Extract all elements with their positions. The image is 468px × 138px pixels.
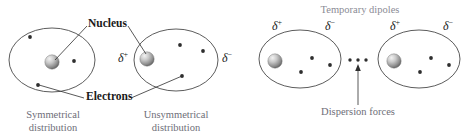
caption-line-1: Symmetrical: [12, 108, 94, 121]
delta-sign: −: [331, 18, 336, 27]
dispersion-forces-figure: Nucleus Electrons δ+ δ− Symmetrical dist…: [0, 0, 468, 138]
delta-sign: +: [278, 18, 283, 27]
delta-sign: +: [396, 18, 401, 27]
delta-sign: +: [124, 50, 129, 59]
interaction-dot: [356, 58, 359, 61]
temporary-dipoles-label: Temporary dipoles: [298, 5, 422, 16]
leader-line-electrons-right: [131, 76, 182, 98]
arrow-head-icon: [355, 64, 361, 71]
electron-dot: [310, 56, 314, 60]
electron-dot: [178, 43, 182, 47]
nucleus-symmetrical: [45, 55, 59, 69]
electron-dot: [72, 59, 76, 63]
nucleus-dipole-right: [387, 54, 401, 68]
nucleus-unsymmetrical: [140, 52, 154, 66]
atom-temporary-dipole-left: [259, 30, 341, 88]
caption-line-2: distribution: [132, 121, 220, 134]
electron-dot: [299, 70, 303, 74]
delta-positive-unsymmetrical: δ+: [118, 51, 128, 64]
nucleus-label: Nucleus: [88, 18, 127, 30]
electrons-label: Electrons: [86, 91, 132, 103]
nucleus-dipole-left: [268, 54, 282, 68]
delta-negative-dipole-left: δ−: [325, 19, 335, 32]
electron-dot: [418, 70, 422, 74]
caption-line-1: Unsymmetrical: [132, 108, 220, 121]
dispersion-interaction-dots: [348, 58, 367, 61]
electron-dot: [28, 35, 32, 39]
dispersion-forces-label: Dispersion forces: [306, 107, 410, 118]
electron-dot: [201, 49, 205, 53]
interaction-dot: [364, 58, 367, 61]
delta-sign: −: [228, 50, 233, 59]
electron-dot: [447, 63, 451, 67]
dispersion-forces-arrow: [355, 64, 361, 105]
delta-negative-dipole-right: δ−: [443, 19, 453, 32]
delta-positive-dipole-left: δ+: [272, 19, 282, 32]
interaction-dot: [348, 58, 351, 61]
atom-unsymmetrical: [134, 29, 218, 91]
delta-positive-dipole-right: δ+: [390, 19, 400, 32]
leader-lines-nucleus: [55, 26, 146, 60]
atom-symmetrical: [9, 28, 95, 92]
caption-symmetrical-distribution: Symmetrical distribution: [12, 108, 94, 134]
atom-temporary-dipole-right: [378, 30, 460, 88]
electron-dot: [429, 56, 433, 60]
delta-negative-unsymmetrical: δ−: [222, 51, 232, 64]
caption-line-2: distribution: [12, 121, 94, 134]
electron-dot: [328, 63, 332, 67]
caption-unsymmetrical-distribution: Unsymmetrical distribution: [132, 108, 220, 134]
delta-sign: −: [449, 18, 454, 27]
